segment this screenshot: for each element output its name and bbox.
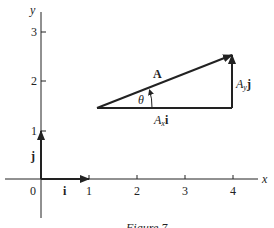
x-axis-label: x — [261, 172, 268, 186]
figure-caption: Figure 7 — [125, 221, 168, 228]
x-tick-3: 3 — [182, 184, 188, 198]
y-axis-label: y — [29, 3, 36, 17]
y-tick-3: 3 — [31, 25, 37, 39]
x-tick-4: 4 — [230, 184, 236, 198]
theta-label: θ — [138, 93, 144, 107]
y-component-label: Ayj — [235, 77, 251, 92]
x-component-label: Axi — [153, 113, 169, 128]
i-label: i — [63, 184, 67, 198]
angle-arc — [150, 90, 153, 108]
x-tick-2: 2 — [134, 184, 140, 198]
y-tick-1: 1 — [31, 124, 37, 138]
y-tick-2: 2 — [31, 74, 37, 88]
vector-a — [97, 55, 232, 108]
axes — [5, 12, 258, 218]
j-label: j — [30, 149, 35, 163]
vector-diagram: 0 1 2 3 4 1 2 3 x y i j A θ Axi Ayj Figu… — [0, 0, 274, 228]
x-tick-0: 0 — [30, 184, 36, 198]
vector-a-label: A — [153, 67, 162, 81]
x-tick-1: 1 — [86, 184, 92, 198]
